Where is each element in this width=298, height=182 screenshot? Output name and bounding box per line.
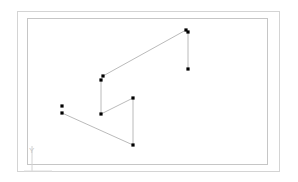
drawing-canvas[interactable]: Y (0, 0, 298, 182)
polyline-segment[interactable] (103, 30, 186, 76)
vertex-marker[interactable] (131, 143, 134, 146)
outer-frame-border (18, 12, 280, 172)
vertex-marker[interactable] (60, 104, 63, 107)
vertex-marker[interactable] (186, 30, 189, 33)
vertex-marker[interactable] (99, 112, 102, 115)
y-axis-label: Y (29, 146, 35, 155)
polyline-path-group[interactable] (62, 30, 188, 145)
polyline-segment[interactable] (101, 98, 133, 114)
vertex-marker[interactable] (131, 96, 134, 99)
vertex-marker[interactable] (186, 67, 189, 70)
inner-frame-border (28, 19, 268, 165)
axis-indicator-group: Y (24, 146, 52, 171)
vertex-marker[interactable] (101, 74, 104, 77)
vertex-marker-group[interactable] (60, 28, 189, 146)
polyline-segment[interactable] (62, 113, 133, 145)
vertex-marker[interactable] (60, 111, 63, 114)
vector-drawing[interactable]: Y (0, 0, 298, 182)
vertex-marker[interactable] (99, 78, 102, 81)
